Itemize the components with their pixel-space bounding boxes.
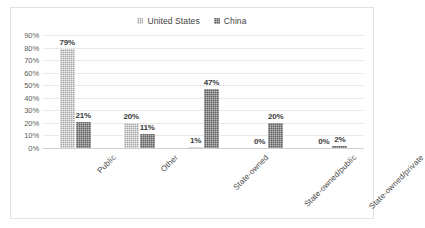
bar-value-label: 20%: [124, 112, 139, 121]
bar[interactable]: [204, 89, 219, 148]
bar-value-label: 79%: [59, 38, 74, 47]
y-axis: 0%10%20%30%40%50%60%70%80%90%: [11, 35, 41, 148]
x-axis-category-label: Other: [159, 153, 180, 174]
x-axis-category-label: State-owned: [231, 153, 270, 192]
y-axis-tick-label: 70%: [24, 56, 39, 65]
legend-label-china: China: [224, 16, 247, 26]
bar[interactable]: [140, 134, 155, 148]
x-axis-category-label: State-owned/public: [302, 153, 358, 209]
bar-value-label: 20%: [268, 112, 283, 121]
legend-item-china: China: [214, 16, 247, 26]
bar-group: 20%11%: [107, 35, 171, 148]
bar-group: 0%2%: [300, 35, 364, 148]
bar-value-label: 11%: [140, 123, 155, 132]
y-axis-tick-label: 10%: [24, 131, 39, 140]
legend-label-united-states: United States: [147, 16, 199, 26]
bar-value-label: 1%: [190, 136, 201, 145]
y-axis-tick-label: 50%: [24, 81, 39, 90]
bar[interactable]: [332, 146, 347, 149]
y-axis-tick-label: 30%: [24, 106, 39, 115]
bar[interactable]: [188, 147, 203, 149]
bar[interactable]: [60, 49, 75, 148]
plot-area: 79%21%20%11%1%47%0%20%0%2%: [43, 35, 364, 148]
bar-value-label: 21%: [75, 111, 90, 120]
legend-item-united-states: United States: [137, 16, 199, 26]
bar-group: 1%47%: [171, 35, 235, 148]
x-axis: PublicOtherState-ownedState-owned/public…: [43, 149, 364, 219]
x-axis-category-label: State-owned/private: [367, 153, 425, 211]
bar-group: 79%21%: [43, 35, 107, 148]
y-axis-tick-label: 20%: [24, 118, 39, 127]
y-axis-tick-label: 60%: [24, 68, 39, 77]
chart-legend: United States China: [11, 16, 373, 26]
chart-container: United States China 0%10%20%30%40%50%60%…: [10, 7, 374, 219]
y-axis-tick-label: 0%: [28, 144, 39, 153]
bar[interactable]: [268, 123, 283, 148]
bar-value-label: 0%: [254, 137, 265, 146]
bar[interactable]: [76, 122, 91, 148]
x-axis-category-label: Public: [96, 153, 118, 175]
bar-group: 0%20%: [236, 35, 300, 148]
y-axis-tick-label: 90%: [24, 31, 39, 40]
bars-layer: 79%21%20%11%1%47%0%20%0%2%: [43, 35, 364, 148]
bar-value-label: 2%: [334, 135, 345, 144]
bar-value-label: 0%: [318, 137, 329, 146]
bar[interactable]: [124, 123, 139, 148]
y-axis-tick-label: 80%: [24, 43, 39, 52]
bar-value-label: 47%: [204, 78, 219, 87]
y-axis-tick-label: 40%: [24, 93, 39, 102]
legend-swatch-icon: [137, 18, 143, 24]
legend-swatch-icon: [214, 18, 220, 24]
